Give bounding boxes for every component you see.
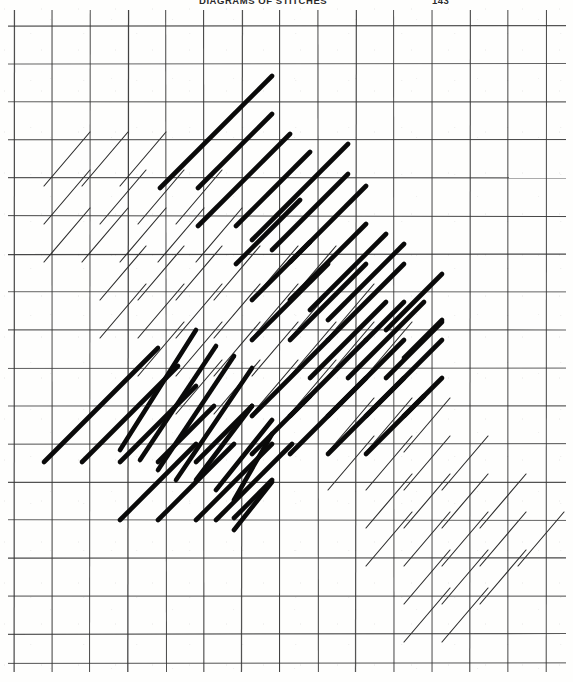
stitch-stroke-bold xyxy=(120,386,196,462)
grid-line-horizontal xyxy=(8,663,566,664)
grid-line-vertical xyxy=(470,10,471,672)
stitch-stroke-bold xyxy=(328,264,404,340)
stitch-stroke-bold xyxy=(198,134,290,226)
grid-line-horizontal xyxy=(8,634,566,635)
diagram-canvas xyxy=(0,0,573,682)
grid-lines xyxy=(8,10,566,672)
grid-line-vertical xyxy=(356,10,357,672)
stitch-diagram-figure xyxy=(0,0,573,682)
stitch-stroke-bold xyxy=(366,302,404,340)
bold-stitch-strokes xyxy=(44,76,442,530)
grid-line-vertical xyxy=(128,10,129,672)
stitch-stroke-bold xyxy=(82,366,178,462)
grid-line-vertical xyxy=(166,10,167,672)
stitch-stroke-bold xyxy=(198,114,272,188)
stitch-stroke-bold xyxy=(290,264,366,340)
stitch-stroke-bold xyxy=(252,340,328,416)
stitch-stroke-bold xyxy=(236,152,310,226)
grid-line-horizontal xyxy=(8,520,566,521)
stitch-stroke-bold xyxy=(290,378,366,454)
stitch-stroke-bold xyxy=(404,320,442,358)
stitch-stroke-bold xyxy=(386,274,442,330)
stitch-stroke-bold xyxy=(328,378,404,454)
stitch-stroke-bold xyxy=(272,174,348,250)
grid-line-vertical xyxy=(90,10,91,672)
scanned-page: DIAGRAMS OF STITCHES 143 xyxy=(0,0,573,682)
grid-line-horizontal xyxy=(8,63,566,64)
grid-line-horizontal xyxy=(8,26,566,27)
